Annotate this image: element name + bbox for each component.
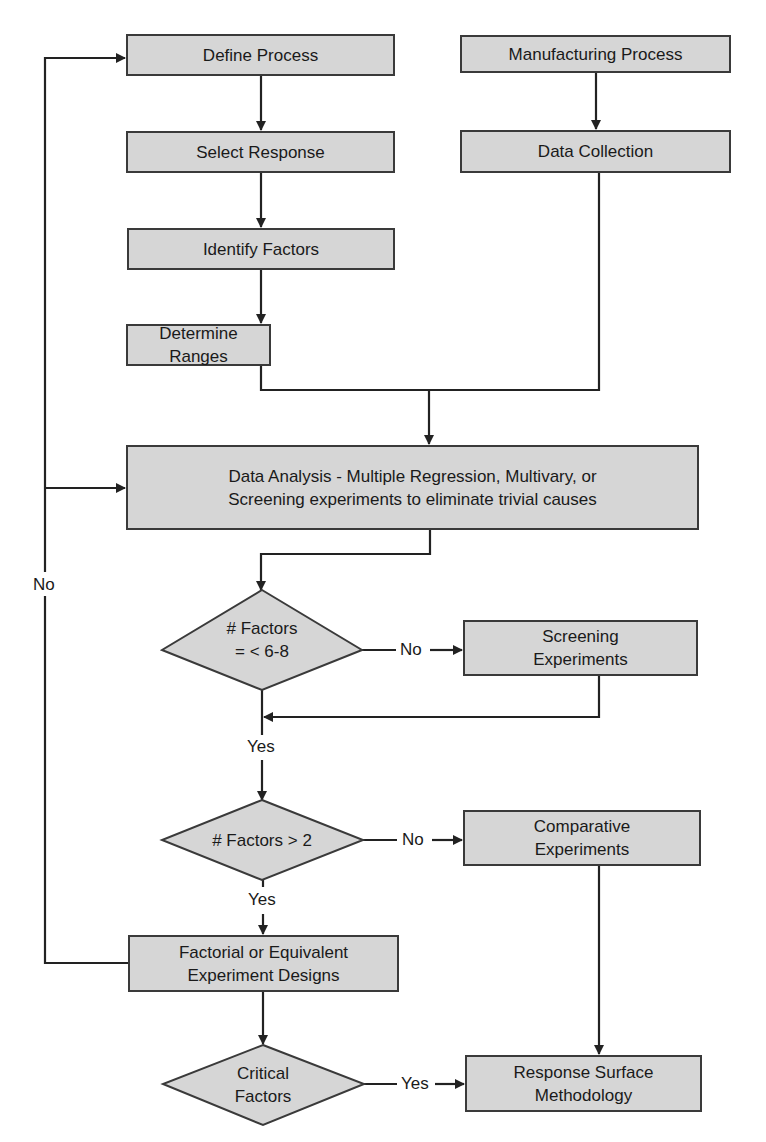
decision-factors-6-8-label: # Factors = < 6-8 [182, 590, 342, 670]
label-d2-no: No [400, 830, 426, 850]
node-data-analysis: Data Analysis - Multiple Regression, Mul… [126, 445, 699, 530]
node-select-response: Select Response [126, 131, 395, 173]
arrow-screening-return [264, 676, 599, 717]
connector-merge [261, 172, 599, 390]
label-d3-yes: Yes [399, 1074, 431, 1094]
node-manufacturing-process: Manufacturing Process [460, 35, 731, 73]
node-define-process: Define Process [126, 34, 395, 76]
arrow-analysis-to-decision1 [261, 529, 430, 590]
decision-factors-gt-2-label: # Factors > 2 [182, 820, 342, 860]
node-identify-factors: Identify Factors [127, 228, 395, 270]
node-determine-ranges: Determine Ranges [126, 324, 271, 366]
node-comparative-experiments: Comparative Experiments [463, 810, 701, 866]
loop-line-lower [45, 596, 128, 963]
decision-critical-factors-label: Critical Factors [183, 1060, 343, 1110]
label-d1-no: No [398, 640, 424, 660]
label-d1-yes: Yes [245, 737, 277, 757]
node-response-surface: Response Surface Methodology [465, 1055, 702, 1112]
node-screening-experiments: Screening Experiments [463, 620, 698, 676]
label-loop-no: No [31, 575, 57, 595]
node-factorial-designs: Factorial or Equivalent Experiment Desig… [128, 935, 399, 992]
label-d2-yes: Yes [246, 890, 278, 910]
arrow-loop-to-define [45, 58, 125, 572]
node-data-collection: Data Collection [460, 130, 731, 173]
